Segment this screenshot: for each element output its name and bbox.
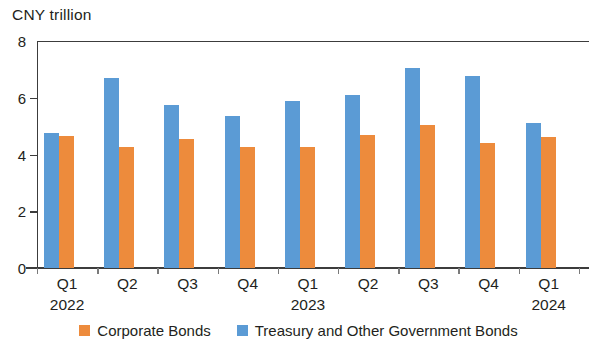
x-axis-quarter-label: Q4 (459, 276, 519, 292)
x-axis-quarter-label: Q1 (37, 276, 97, 292)
y-axis-tick (30, 98, 38, 100)
x-axis-year-label: 2023 (272, 297, 344, 313)
x-axis-tick (519, 268, 520, 274)
x-axis-quarter-label: Q1 (278, 276, 338, 292)
x-axis-tick (579, 268, 580, 274)
legend-item[interactable]: Corporate Bonds (79, 322, 210, 339)
x-axis-tick (458, 268, 459, 274)
x-axis-tick (157, 268, 158, 274)
x-axis-quarter-label: Q3 (158, 276, 218, 292)
legend-label: Corporate Bonds (97, 322, 210, 339)
x-axis-quarter-label: Q1 (519, 276, 579, 292)
x-axis-quarter-label: Q2 (97, 276, 157, 292)
x-axis-quarter-label: Q2 (338, 276, 398, 292)
x-axis-tick (278, 268, 279, 274)
legend-swatch-icon (79, 325, 90, 336)
chart-legend: Corporate BondsTreasury and Other Govern… (0, 322, 597, 339)
x-axis-tick (398, 268, 399, 274)
x-axis-quarter-label: Q4 (218, 276, 278, 292)
x-axis-tick (338, 268, 339, 274)
x-axis-year-label: 2022 (31, 297, 103, 313)
legend-swatch-icon (237, 325, 248, 336)
x-axis-tick (218, 268, 219, 274)
x-axis-tick (37, 268, 38, 274)
legend-item[interactable]: Treasury and Other Government Bonds (237, 322, 518, 339)
x-axis-year-label: 2024 (513, 297, 585, 313)
bar-chart-figure: CNY trillion 02468 Q1Q2Q3Q4Q1Q2Q3Q4Q1202… (0, 0, 597, 340)
y-axis-tick (30, 211, 38, 213)
x-axis-labels: Q1Q2Q3Q4Q1Q2Q3Q4Q1202220232024 (0, 0, 597, 340)
x-axis-tick (97, 268, 98, 274)
legend-label: Treasury and Other Government Bonds (255, 322, 518, 339)
x-axis-quarter-label: Q3 (398, 276, 458, 292)
y-axis-tick (30, 155, 38, 157)
